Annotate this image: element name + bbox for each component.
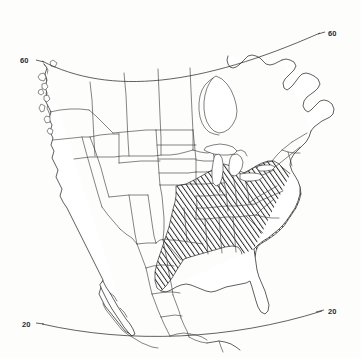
parallel-60	[36, 32, 325, 82]
latitude-label-60-right: 60	[328, 29, 337, 38]
latitude-label-20-left: 20	[22, 320, 31, 329]
latitude-label-20-right: 20	[328, 307, 337, 316]
map-figure: 60 60 20 20	[0, 0, 361, 358]
latitude-label-60-left: 60	[20, 56, 29, 65]
map-canvas: 60 60 20 20	[0, 0, 361, 358]
